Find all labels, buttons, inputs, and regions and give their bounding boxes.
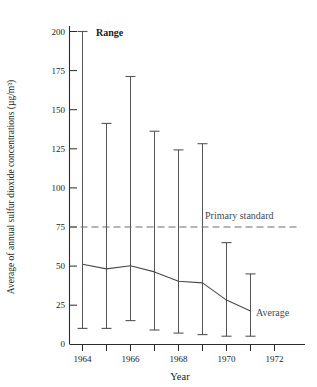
y-ticks-group [70, 32, 78, 306]
range-whisker-1971 [246, 274, 256, 336]
y-tick-label-0: 0 [61, 339, 66, 349]
average-annotation-label: Average [256, 307, 290, 318]
range-annotation-label: Range [96, 27, 124, 38]
primary-standard-annotation-label: Primary standard [205, 210, 274, 221]
x-axis-title: Year [170, 371, 190, 382]
range-whisker-1968 [174, 150, 184, 333]
x-tick-label-1964: 1964 [74, 354, 93, 364]
y-tick-label-50: 50 [56, 261, 66, 271]
axes-group [70, 26, 306, 345]
y-tick-labels-group: 200 175 150 125 100 75 50 25 0 [52, 27, 66, 349]
y-tick-label-100: 100 [52, 183, 66, 193]
range-whiskers-group [78, 32, 256, 337]
y-axis-title: Average of annual sulfur dioxide concent… [6, 80, 17, 294]
y-tick-label-200: 200 [52, 27, 66, 37]
y-tick-label-125: 125 [52, 144, 66, 154]
x-tick-labels-group: 1964 1966 1968 1970 1972 [74, 354, 284, 364]
range-whisker-1967 [150, 131, 160, 330]
y-tick-label-75: 75 [56, 222, 66, 232]
average-series-line [83, 264, 251, 311]
range-whisker-1965 [102, 123, 112, 328]
y-tick-label-150: 150 [52, 105, 66, 115]
so2-range-chart: 200 175 150 125 100 75 50 25 0 1964 1966 [0, 0, 317, 387]
x-tick-label-1972: 1972 [266, 354, 284, 364]
range-whisker-1969 [198, 144, 208, 335]
y-tick-label-175: 175 [52, 66, 66, 76]
chart-canvas: 200 175 150 125 100 75 50 25 0 1964 1966 [0, 0, 317, 387]
range-whisker-1970 [222, 243, 232, 337]
x-ticks-group [83, 345, 275, 352]
x-tick-label-1966: 1966 [122, 354, 141, 364]
range-whisker-1964 [78, 32, 88, 329]
y-tick-label-25: 25 [56, 300, 66, 310]
x-tick-label-1968: 1968 [170, 354, 189, 364]
x-tick-label-1970: 1970 [218, 354, 237, 364]
range-whisker-1966 [126, 77, 136, 321]
